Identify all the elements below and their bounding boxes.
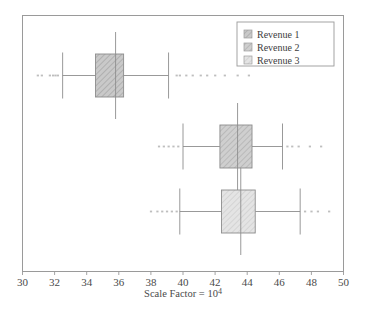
outlier-point bbox=[224, 75, 226, 77]
outlier-point bbox=[310, 211, 312, 213]
outlier-point bbox=[176, 211, 178, 213]
outlier-point bbox=[291, 146, 293, 148]
x-tick-label: 36 bbox=[113, 276, 125, 288]
outlier-point bbox=[57, 75, 59, 77]
box-iqr bbox=[220, 125, 252, 168]
x-axis-title: Scale Factor = 104 bbox=[144, 287, 222, 300]
x-tick-label: 30 bbox=[17, 276, 29, 288]
outlier-point bbox=[161, 211, 163, 213]
legend-label-1: Revenue 1 bbox=[257, 29, 300, 40]
outlier-point bbox=[54, 75, 56, 77]
outlier-point bbox=[150, 211, 152, 213]
legend-swatch-3 bbox=[244, 56, 252, 64]
box-iqr bbox=[96, 54, 124, 97]
box-iqr bbox=[222, 190, 256, 233]
outlier-point bbox=[200, 75, 202, 77]
outlier-point bbox=[317, 211, 319, 213]
outlier-point bbox=[185, 75, 187, 77]
x-tick-label: 50 bbox=[338, 276, 350, 288]
outlier-point bbox=[214, 75, 216, 77]
outlier-point bbox=[248, 75, 250, 77]
x-tick-label: 46 bbox=[274, 276, 286, 288]
outlier-point bbox=[237, 75, 239, 77]
x-axis: 3032343638404244464850 bbox=[17, 272, 350, 289]
outlier-point bbox=[49, 75, 51, 77]
outlier-point bbox=[171, 211, 173, 213]
chart-canvas: 3032343638404244464850 Scale Factor = 10… bbox=[0, 0, 366, 314]
outlier-point bbox=[163, 146, 165, 148]
outlier-point bbox=[320, 146, 322, 148]
outlier-point bbox=[158, 146, 160, 148]
outlier-point bbox=[206, 75, 208, 77]
outlier-point bbox=[52, 75, 54, 77]
outlier-point bbox=[156, 211, 158, 213]
legend-label-3: Revenue 3 bbox=[257, 55, 300, 66]
outlier-point bbox=[328, 211, 330, 213]
outlier-point bbox=[172, 146, 174, 148]
legend-swatch-2 bbox=[244, 43, 252, 51]
boxplot-chart: 3032343638404244464850 Scale Factor = 10… bbox=[0, 0, 366, 314]
outlier-point bbox=[298, 146, 300, 148]
legend-swatch-1 bbox=[244, 30, 252, 38]
outlier-point bbox=[166, 211, 168, 213]
outlier-point bbox=[37, 75, 39, 77]
outlier-point bbox=[177, 146, 179, 148]
x-tick-label: 34 bbox=[81, 276, 93, 288]
outlier-point bbox=[179, 75, 181, 77]
outlier-point bbox=[192, 75, 194, 77]
x-tick-label: 40 bbox=[178, 276, 190, 288]
outlier-point bbox=[168, 146, 170, 148]
x-tick-label: 44 bbox=[242, 276, 254, 288]
outlier-point bbox=[286, 146, 288, 148]
x-tick-label: 38 bbox=[145, 276, 157, 288]
outlier-point bbox=[304, 211, 306, 213]
outlier-point bbox=[176, 75, 178, 77]
x-tick-label: 48 bbox=[306, 276, 318, 288]
outlier-point bbox=[309, 146, 311, 148]
x-tick-label: 32 bbox=[49, 276, 60, 288]
legend-label-2: Revenue 2 bbox=[257, 42, 300, 53]
outlier-point bbox=[41, 75, 43, 77]
chart-legend: Revenue 1Revenue 2Revenue 3 bbox=[237, 22, 334, 66]
